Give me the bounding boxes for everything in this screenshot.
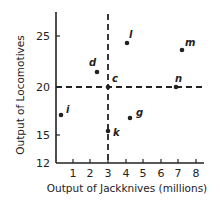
label-c: c: [112, 73, 118, 84]
x-tick-labels: 1 2 3 4 5 6 7 8: [70, 167, 200, 180]
x-tick-5: 5: [140, 167, 147, 180]
y-tick-12: 12: [36, 157, 50, 170]
label-n: n: [175, 73, 182, 84]
label-k: k: [113, 127, 121, 138]
point-i: [59, 113, 64, 118]
y-axis-title: Output of Locomotives: [14, 35, 26, 154]
x-tick-2: 2: [87, 167, 94, 180]
label-g: g: [136, 107, 143, 118]
point-k: [106, 129, 111, 134]
x-tick-1: 1: [70, 167, 77, 180]
y-tick-25: 25: [36, 30, 50, 43]
point-g: [128, 116, 133, 121]
x-tick-3: 3: [105, 167, 112, 180]
y-tick-15: 15: [36, 129, 50, 142]
point-labels: d l m c n i g k: [66, 29, 195, 138]
y-tick-labels: 25 20 15 12: [36, 30, 50, 170]
label-l: l: [129, 29, 133, 40]
x-tick-4: 4: [123, 167, 130, 180]
x-tick-6: 6: [158, 167, 165, 180]
label-m: m: [185, 37, 195, 48]
x-axis-title: Output of Jackknives (millions): [47, 182, 207, 194]
scatter-chart: 25 20 15 12 1 2 3 4 5 6 7 8 Output of Ja…: [0, 0, 221, 203]
point-d: [95, 70, 100, 75]
point-n: [174, 85, 179, 90]
y-tick-20: 20: [36, 81, 50, 94]
x-tick-8: 8: [193, 167, 200, 180]
point-c: [106, 85, 111, 90]
point-l: [125, 41, 130, 46]
label-d: d: [89, 57, 97, 68]
x-tick-7: 7: [175, 167, 182, 180]
label-i: i: [66, 104, 70, 115]
point-m: [180, 48, 185, 53]
